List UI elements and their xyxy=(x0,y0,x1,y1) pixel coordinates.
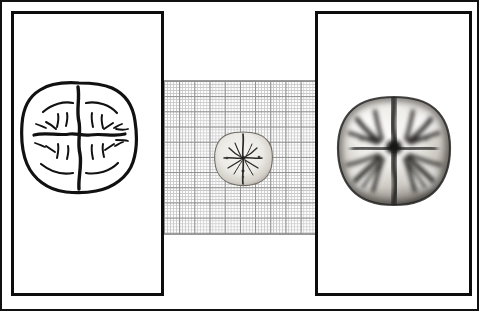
molar-occlusal-photo-small xyxy=(212,130,274,188)
figure-container: Occlusal surface of a molar tooth — thre… xyxy=(0,0,479,311)
molar-occlusal-photo-large xyxy=(335,95,453,207)
figure-title: Occlusal surface of a molar tooth — thre… xyxy=(2,2,3,3)
photograph-panel-label: Enlarged greyscale photograph of molar o… xyxy=(318,14,319,15)
molar-occlusal-line-drawing xyxy=(18,80,140,195)
line-drawing-panel-label: Schematic line drawing of molar occlusal… xyxy=(14,14,15,15)
graph-paper-panel-label: Specimen photographed on graph paper for… xyxy=(164,81,165,82)
